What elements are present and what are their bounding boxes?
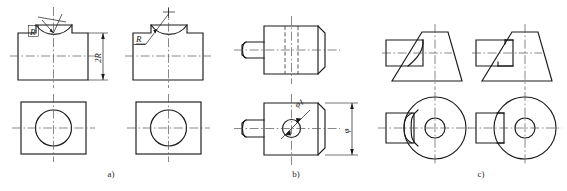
radius-leader-line xyxy=(146,14,169,44)
dimension-arrow-top xyxy=(350,103,354,109)
diameter-leader-line xyxy=(281,110,310,139)
height-dimension-label: 2R xyxy=(93,52,103,62)
figure-a-right-front-view xyxy=(125,7,211,88)
radius-label: R xyxy=(29,27,36,37)
figure-b-top-view: φ1 φ xyxy=(234,94,358,165)
figure-c-right-top-view xyxy=(468,92,562,165)
concave-groove-arc xyxy=(36,25,72,34)
figure-c-left-top-view xyxy=(378,92,472,165)
radius-cross-tick xyxy=(38,17,66,22)
figure-a-left-variant: R 2R xyxy=(10,7,108,162)
figure-c-left-front-view xyxy=(382,24,462,90)
left-stub-end-arc xyxy=(243,42,246,58)
figure-a-left-top-view xyxy=(12,94,95,162)
diameter-arrow-lower xyxy=(285,130,291,136)
figure-a-left-height-dimension: 2R xyxy=(88,33,108,80)
technical-drawing-canvas: R 2R xyxy=(0,0,567,191)
figure-a-right-variant: R xyxy=(125,7,211,162)
body-outline xyxy=(264,103,325,155)
front-view-outline xyxy=(133,25,203,80)
dimension-arrow-top xyxy=(101,33,105,39)
figure-c-right-front-view xyxy=(472,24,552,90)
cone-body-outline xyxy=(482,32,552,81)
radius-label: R xyxy=(135,34,142,44)
overall-width-dimension: φ xyxy=(325,103,358,155)
caption-a: a) xyxy=(108,169,115,179)
figure-a-left-front-view xyxy=(10,7,96,88)
cone-body-outline xyxy=(392,32,462,81)
figure-a-right-top-view xyxy=(127,94,210,162)
overall-width-label: φ xyxy=(341,128,351,133)
drawing-sheet: R 2R xyxy=(0,0,567,191)
dimension-arrow-bottom xyxy=(350,149,354,155)
bore-diameter-label: φ1 xyxy=(293,96,306,109)
left-stub-end-arc xyxy=(243,120,246,137)
caption-b: b) xyxy=(292,169,300,179)
caption-c: c) xyxy=(478,169,485,179)
radius-guide-line xyxy=(54,14,63,33)
dimension-arrow-bottom xyxy=(101,74,105,80)
figure-a-right-radius-callout: R xyxy=(134,8,175,45)
figure-b-front-view xyxy=(234,16,340,84)
